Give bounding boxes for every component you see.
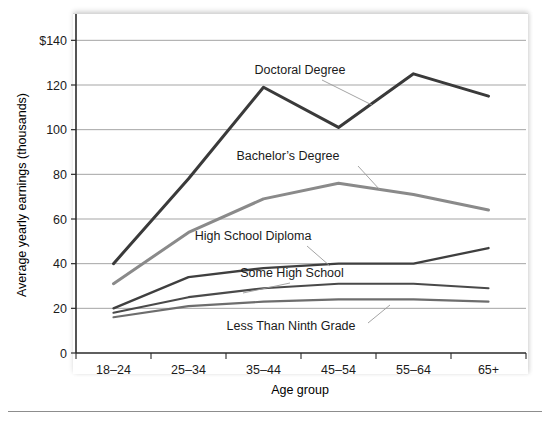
- y-tick-label: 60: [53, 213, 67, 227]
- x-tick-label: 65+: [478, 363, 499, 377]
- series-label: Doctoral Degree: [254, 63, 345, 77]
- x-tick-label: 35–44: [246, 363, 281, 377]
- x-tick-label: 25–34: [171, 363, 206, 377]
- series-label: High School Diploma: [195, 229, 312, 243]
- chart-figure: 020406080100120$140 18–2425–3435–4445–54…: [0, 0, 550, 423]
- y-tick-label: 120: [46, 79, 67, 93]
- x-tick-group: 18–2425–3435–4445–5455–6465+: [76, 353, 526, 377]
- series-line-group: [114, 74, 489, 317]
- y-tick-label: 40: [53, 257, 67, 271]
- y-tick-label: 80: [53, 168, 67, 182]
- y-tick-label: 20: [53, 302, 67, 316]
- y-tick-label: 0: [60, 347, 67, 361]
- series-label-leader: [307, 246, 330, 266]
- x-tick-label: 45–54: [321, 363, 356, 377]
- series-label: Some High School: [240, 266, 344, 280]
- series-label-leader: [322, 80, 372, 105]
- line-chart-svg: 020406080100120$140 18–2425–3435–4445–54…: [0, 0, 550, 423]
- y-tick-label: 100: [46, 123, 67, 137]
- x-axis-title: Age group: [271, 383, 329, 397]
- series-label: Bachelor’s Degree: [236, 149, 339, 163]
- y-axis-title: Average yearly earnings (thousands): [15, 93, 29, 297]
- y-tick-label: $140: [39, 34, 67, 48]
- x-tick-label: 18–24: [96, 363, 131, 377]
- series-label: Less Than Ninth Grade: [226, 319, 355, 333]
- series-label-leader: [368, 305, 390, 323]
- y-tick-group: 020406080100120$140: [39, 34, 76, 361]
- x-tick-label: 55–64: [396, 363, 431, 377]
